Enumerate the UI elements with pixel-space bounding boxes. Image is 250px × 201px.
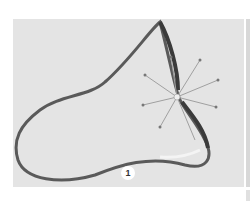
- figure-number-badge: 1: [121, 166, 135, 180]
- ribbon-loop-illustration: [13, 19, 244, 187]
- photograph: [13, 19, 244, 187]
- adjacent-photo-edge-bottom: [246, 190, 250, 201]
- adjacent-photo-edge: [246, 19, 250, 187]
